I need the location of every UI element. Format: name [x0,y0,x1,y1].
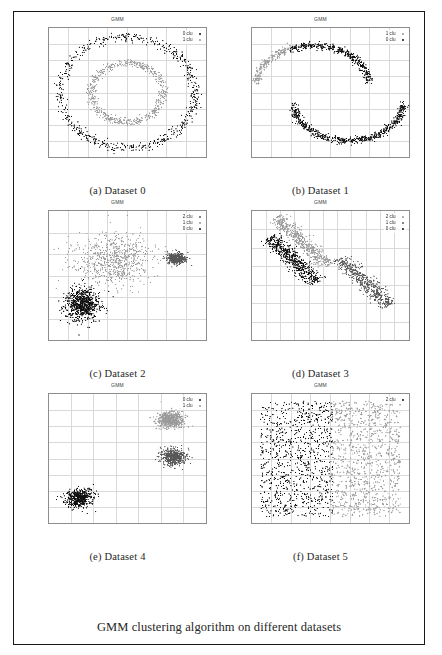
plot-title: GMM [223,199,419,205]
legend-item-label: 1 clu [183,38,193,43]
subfigure-row-3: GMM-2-1.5-1-0.500.511.52-2-1.5-1-0.500.5… [16,382,422,565]
scatter-canvas [49,28,206,157]
plot-d[interactable]: GMM-4-3-2-10123-2.5-2-1.5-1-0.500.511.52… [223,199,419,367]
legend-item-label: 1 clu [386,221,396,226]
legend-marker-icon [198,38,203,43]
subfigure-c: GMM-3-2-10123-2-1.5-1-0.500.511.52xy2 cl… [19,199,217,382]
legend-item-label: 1 clu [386,32,396,37]
plot-f[interactable]: GMM-2-1.5-1-0.500.511.52-2-1.5-1-0.500.5… [223,382,419,550]
legend-marker-icon [198,404,203,409]
plot-legend: 2 clu1 clu0 clu [181,213,204,233]
subfigure-e: GMM-2-1.5-1-0.500.511.52-2-1.5-1-0.500.5… [19,382,217,565]
legend-item[interactable]: 2 clu [386,397,406,403]
legend-item-label: 2 clu [386,398,396,403]
legend-item[interactable]: 1 clu [183,37,203,43]
legend-marker-icon [401,227,406,232]
legend-item-label: 0 clu [183,227,193,232]
plot-legend: 0 clu1 clu [181,30,204,44]
subcaption-c: (c) Dataset 2 [89,368,145,379]
legend-item-label: 0 clu [386,227,396,232]
legend-marker-icon [198,221,203,226]
plot-title: GMM [20,16,216,22]
legend-marker-icon [401,38,406,43]
figure-frame: GMM-2-1.5-1-0.500.511.52-2-1.5-1-0.500.5… [13,11,425,645]
plot-area[interactable]: -2-1.5-1-0.500.511.52-2-1.5-1-0.500.511.… [251,27,410,158]
legend-item[interactable]: 1 clu [183,403,203,409]
figure-caption: GMM clustering algorithm on different da… [14,620,424,635]
legend-item-label: 1 clu [183,221,193,226]
legend-item-label: 1 clu [183,404,193,409]
legend-marker-icon [198,32,203,37]
legend-item-label: 0 clu [183,32,193,37]
plot-title: GMM [20,382,216,388]
subfigure-d: GMM-4-3-2-10123-2.5-2-1.5-1-0.500.511.52… [222,199,420,382]
legend-marker-icon [401,221,406,226]
plot-area[interactable]: -2-1.5-1-0.500.511.52-2-1.5-1-0.500.511.… [48,393,207,524]
figure-body: GMM-2-1.5-1-0.500.511.52-2-1.5-1-0.500.5… [14,12,424,644]
scatter-canvas [49,394,206,523]
scatter-canvas [252,394,409,523]
plot-legend: 0 clu1 clu [181,396,204,410]
plot-legend: 1 clu0 clu [384,30,407,44]
plot-e[interactable]: GMM-2-1.5-1-0.500.511.52-2-1.5-1-0.500.5… [20,382,216,550]
subcaption-d: (d) Dataset 3 [292,368,349,379]
plot-title: GMM [223,16,419,22]
plot-area[interactable]: -3-2-10123-2-1.5-1-0.500.511.52xy2 clu1 … [48,210,207,341]
legend-item-label: 0 clu [386,38,396,43]
subfigure-f: GMM-2-1.5-1-0.500.511.52-2-1.5-1-0.500.5… [222,382,420,565]
subfigure-row-1: GMM-2-1.5-1-0.500.511.52-2-1.5-1-0.500.5… [16,16,422,199]
legend-marker-icon [401,398,406,403]
legend-item-label: 2 clu [386,215,396,220]
subfigure-row-2: GMM-3-2-10123-2-1.5-1-0.500.511.52xy2 cl… [16,199,422,382]
plot-b[interactable]: GMM-2-1.5-1-0.500.511.52-2-1.5-1-0.500.5… [223,16,419,184]
legend-item-label: 0 clu [183,398,193,403]
legend-marker-icon [198,227,203,232]
subcaption-f: (f) Dataset 5 [293,551,348,562]
scatter-canvas [252,28,409,157]
legend-item[interactable]: 0 clu [183,226,203,232]
subfigure-a: GMM-2-1.5-1-0.500.511.52-2-1.5-1-0.500.5… [19,16,217,199]
plot-title: GMM [223,382,419,388]
legend-item[interactable]: 0 clu [386,226,406,232]
plot-legend: 2 clu1 clu0 clu [384,213,407,233]
subcaption-e: (e) Dataset 4 [89,551,145,562]
legend-item[interactable]: 0 clu [386,37,406,43]
legend-marker-icon [198,215,203,220]
subfigure-b: GMM-2-1.5-1-0.500.511.52-2-1.5-1-0.500.5… [222,16,420,199]
subcaption-b: (b) Dataset 1 [292,185,349,196]
plot-area[interactable]: -2-1.5-1-0.500.511.52-2-1.5-1-0.500.511.… [251,393,410,524]
legend-marker-icon [401,32,406,37]
legend-marker-icon [198,398,203,403]
legend-item-label: 2 clu [183,215,193,220]
plot-legend: 2 clu [384,396,407,404]
plot-c[interactable]: GMM-3-2-10123-2-1.5-1-0.500.511.52xy2 cl… [20,199,216,367]
legend-marker-icon [401,215,406,220]
plot-area[interactable]: -2-1.5-1-0.500.511.52-2-1.5-1-0.500.511.… [48,27,207,158]
plot-title: GMM [20,199,216,205]
plot-a[interactable]: GMM-2-1.5-1-0.500.511.52-2-1.5-1-0.500.5… [20,16,216,184]
subcaption-a: (a) Dataset 0 [89,185,145,196]
plot-area[interactable]: -4-3-2-10123-2.5-2-1.5-1-0.500.511.522.5… [251,210,410,341]
